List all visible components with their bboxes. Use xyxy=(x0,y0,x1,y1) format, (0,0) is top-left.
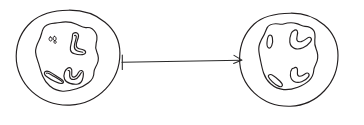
transition-arrow[interactable] xyxy=(122,55,242,70)
diagram-canvas xyxy=(0,0,364,125)
right-chromosome-rod xyxy=(268,75,282,87)
right-chromosome-l xyxy=(290,30,312,49)
left-cell-nucleus xyxy=(36,22,99,91)
left-cell[interactable] xyxy=(16,10,120,105)
arrow-shaft xyxy=(122,60,241,62)
cell-division-diagram: Hand-drawn cell diagram with arrow Left … xyxy=(0,0,364,125)
arrow-head xyxy=(234,55,242,63)
right-cell[interactable] xyxy=(240,13,338,106)
right-cell-nucleus xyxy=(259,23,318,90)
right-cell-membrane xyxy=(240,13,338,106)
right-chromosome-oval xyxy=(267,35,273,48)
right-chromosome-v xyxy=(290,67,309,82)
left-chromosome-dots xyxy=(49,36,56,43)
left-chromosome-w xyxy=(64,68,83,84)
